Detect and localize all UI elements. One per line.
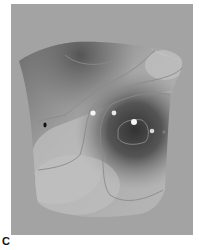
surface-shape (0, 0, 199, 250)
panel-label: C (2, 235, 10, 248)
marker-white-1 (90, 110, 95, 115)
marker-gray-5 (162, 130, 166, 134)
surface-map (0, 0, 199, 250)
marker-white-2 (112, 111, 117, 116)
marker-white-3 (131, 119, 137, 125)
marker-black (43, 123, 46, 128)
marker-white-4 (150, 129, 155, 134)
